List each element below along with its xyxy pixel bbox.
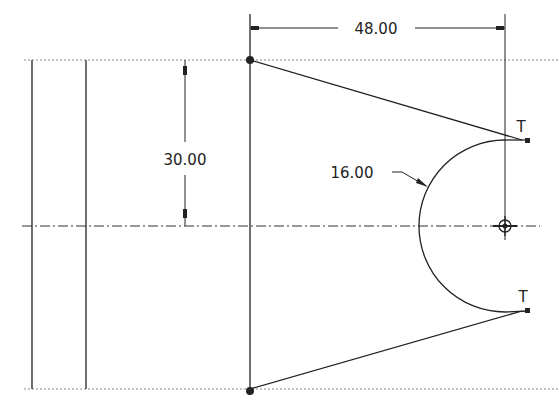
upper-endpoint-marker[interactable]: [525, 138, 530, 143]
upper-tangent-line[interactable]: [250, 60, 522, 140]
lower-endpoint-marker[interactable]: [525, 308, 530, 313]
horizontal-dimension-label[interactable]: 48.00: [355, 20, 398, 38]
tangent-marker-upper: T: [515, 118, 526, 136]
dimension-arrow-up-icon: [183, 66, 187, 75]
dimension-arrow-down-icon: [183, 209, 187, 218]
vertical-dimension-label[interactable]: 30.00: [164, 151, 207, 169]
dimension-arrow-right-icon: [496, 26, 504, 30]
lower-arc-end-segment: [505, 311, 528, 312]
top-vertex-marker[interactable]: [246, 56, 254, 64]
radius-dimension[interactable]: 16.00: [331, 164, 428, 187]
sketch-canvas[interactable]: 48.00 30.00 16.00 T T: [0, 0, 559, 410]
lower-tangent-line[interactable]: [250, 311, 522, 389]
tangent-marker-lower: T: [517, 288, 528, 306]
vertical-dimension[interactable]: 30.00: [164, 60, 207, 226]
radius-dimension-label[interactable]: 16.00: [331, 164, 374, 182]
bottom-vertex-marker[interactable]: [246, 387, 254, 395]
leader-arrow-icon: [416, 178, 428, 187]
arc-center-point-icon[interactable]: [493, 216, 517, 236]
horizontal-dimension[interactable]: 48.00: [250, 20, 505, 38]
dimension-arrow-left-icon: [251, 26, 259, 30]
